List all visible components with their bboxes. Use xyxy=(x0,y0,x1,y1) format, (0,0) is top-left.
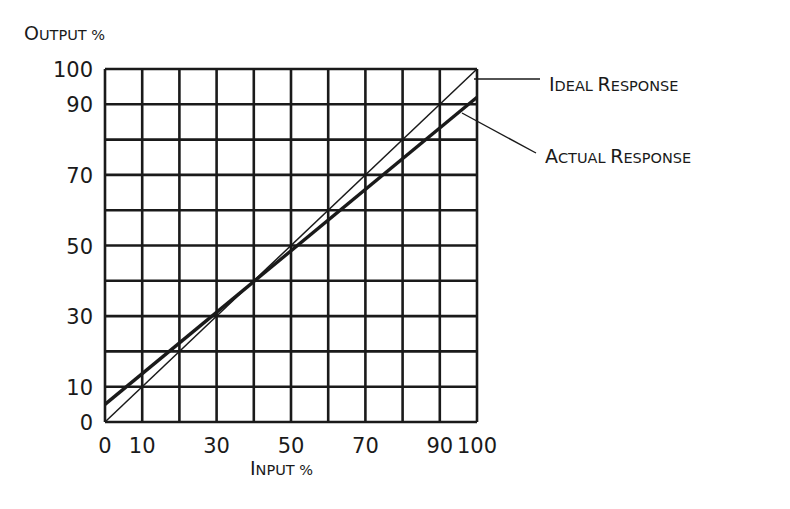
x-tick-label: 70 xyxy=(352,434,379,458)
actual-leader-line xyxy=(462,113,536,153)
y-tick-label: 100 xyxy=(53,58,93,82)
x-tick-label: 10 xyxy=(129,434,156,458)
y-tick-label: 90 xyxy=(66,93,93,117)
axis-ticks: 0103050709010001030507090100 xyxy=(53,58,497,458)
y-tick-label: 30 xyxy=(66,305,93,329)
y-tick-label: 0 xyxy=(80,411,93,435)
x-axis-title: INPUT % xyxy=(250,457,313,479)
response-chart: 0103050709010001030507090100 OUTPUT % IN… xyxy=(0,0,790,509)
y-tick-label: 70 xyxy=(66,164,93,188)
x-tick-label: 0 xyxy=(98,434,111,458)
x-tick-label: 100 xyxy=(457,434,497,458)
actual-response-label: ACTUAL RESPONSE xyxy=(545,145,691,167)
y-tick-label: 50 xyxy=(66,235,93,259)
y-tick-label: 10 xyxy=(66,376,93,400)
x-tick-label: 30 xyxy=(203,434,230,458)
x-tick-label: 50 xyxy=(278,434,305,458)
ideal-response-label: IDEAL RESPONSE xyxy=(549,73,679,95)
x-tick-label: 90 xyxy=(426,434,453,458)
y-axis-title: OUTPUT % xyxy=(24,22,105,44)
